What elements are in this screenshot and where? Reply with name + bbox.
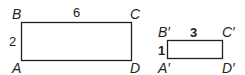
vertex-label-a-prime: A′ [157, 60, 171, 75]
vertex-label-c-prime: C′ [222, 24, 236, 40]
side-length-b-prime-c-prime: 3 [190, 25, 197, 40]
side-length-a-prime-b-prime: 1 [158, 43, 165, 58]
vertex-label-b: B [12, 6, 21, 22]
side-length-ab: 2 [9, 34, 16, 49]
vertex-label-d: D [130, 60, 140, 75]
rectangle-abcd-shape [22, 23, 132, 61]
vertex-label-c: C [130, 6, 141, 22]
rectangle-abcd-prime-shape [168, 41, 223, 59]
rectangles-diagram: B C A D 6 2 B′ C′ A′ D′ 3 1 [0, 0, 245, 75]
vertex-label-b-prime: B′ [158, 24, 171, 40]
vertex-label-a: A [11, 60, 21, 75]
rectangle-abcd-prime: B′ C′ A′ D′ 3 1 [157, 24, 236, 75]
side-length-bc: 6 [73, 5, 80, 20]
vertex-label-d-prime: D′ [222, 60, 236, 75]
rectangle-abcd: B C A D 6 2 [9, 5, 141, 75]
